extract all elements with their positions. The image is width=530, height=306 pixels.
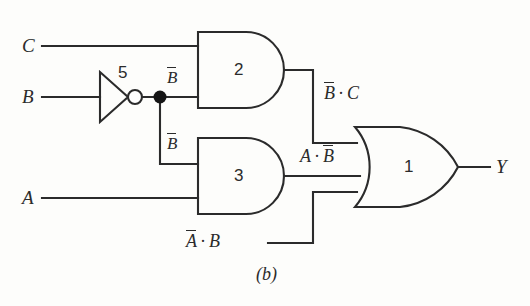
input-label-b: B: [22, 87, 34, 106]
wire-and2-to-or: [284, 70, 357, 143]
gate-number-5: 5: [118, 64, 127, 81]
dot-op-and2: ·: [335, 83, 347, 103]
not-gate-bubble: [128, 90, 142, 104]
wire-label-not-out-top: B: [167, 69, 177, 86]
figure-caption: (b): [256, 264, 277, 285]
gate-number-3: 3: [234, 167, 243, 184]
logic-circuit-svg: [0, 0, 530, 306]
wire-label-not-out-bottom: B: [167, 135, 177, 152]
overline-b-bottom: B: [167, 135, 177, 152]
wire-label-and3-output: A·B: [300, 147, 334, 165]
wire-abarb-to-or: [268, 192, 357, 243]
operand-c-and2: C: [347, 83, 359, 103]
gate-number-2: 2: [234, 61, 243, 78]
overline-b-and2: B: [324, 84, 335, 102]
input-label-c: C: [22, 36, 35, 55]
overline-b-top: B: [167, 69, 177, 86]
wire-notout-to-and3: [160, 97, 198, 164]
operand-b-or: B: [209, 231, 220, 251]
wire-label-or-third-input: A·B: [186, 232, 220, 250]
dot-op-or: ·: [197, 231, 209, 251]
output-label-y: Y: [496, 157, 507, 176]
overline-a-or: A: [186, 232, 197, 250]
dot-op-and3: ·: [311, 146, 323, 166]
gate-number-1: 1: [404, 158, 413, 175]
figure-container: C B A Y 5 2 3 1 B B B·C A·B A·B (b): [0, 0, 530, 306]
overline-b-and3: B: [323, 147, 334, 165]
input-label-a: A: [22, 188, 34, 207]
wire-label-and2-output: B·C: [324, 84, 359, 102]
wire-junction-dot: [154, 91, 167, 104]
operand-a-and3: A: [300, 146, 311, 166]
